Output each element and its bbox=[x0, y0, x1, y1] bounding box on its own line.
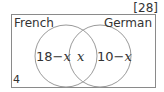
french-only-number: 18 bbox=[36, 49, 53, 64]
both-region: x bbox=[77, 49, 84, 64]
german-only-var: x bbox=[124, 49, 131, 64]
german-only-number: 10 bbox=[97, 49, 114, 64]
french-only-op: − bbox=[53, 49, 64, 64]
german-label: German bbox=[104, 16, 152, 30]
french-label: French bbox=[14, 16, 54, 30]
french-only-var: x bbox=[63, 49, 70, 64]
french-only-region: 18−x bbox=[36, 49, 71, 64]
outside-value: 4 bbox=[13, 73, 20, 86]
german-only-region: 10−x bbox=[97, 49, 132, 64]
german-only-op: − bbox=[114, 49, 125, 64]
venn-diagram bbox=[0, 0, 164, 92]
